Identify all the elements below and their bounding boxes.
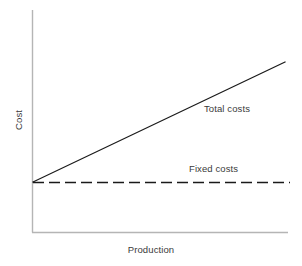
cost-volume-chart: Cost Production Total costs Fixed costs	[0, 0, 302, 266]
x-axis-title: Production	[0, 244, 302, 255]
total-costs-line	[33, 62, 285, 182]
series-label-fixed-costs: Fixed costs	[189, 163, 238, 174]
series-label-total-costs: Total costs	[204, 103, 250, 114]
y-axis-title: Cost	[13, 110, 24, 130]
chart-plot-area	[0, 0, 302, 266]
